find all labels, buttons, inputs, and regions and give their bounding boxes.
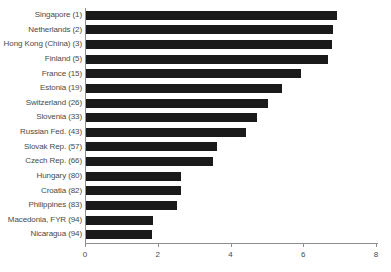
bar-row — [86, 96, 377, 111]
bar — [86, 55, 328, 64]
bar-row — [86, 169, 377, 184]
bar-row — [86, 213, 377, 228]
x-axis-tick-label: 8 — [374, 250, 378, 259]
y-axis-tick-label: Hungary (80) — [0, 169, 82, 184]
y-axis-tick-label: Singapore (1) — [0, 8, 82, 23]
bar-row — [86, 110, 377, 125]
y-axis-tick-label: Philippines (83) — [0, 198, 82, 213]
bar-chart: Singapore (1)Netherlands (2)Hong Kong (C… — [0, 0, 391, 272]
y-axis-tick-label: Czech Rep. (66) — [0, 154, 82, 169]
x-axis-tick — [85, 243, 86, 247]
x-axis-tick — [376, 243, 377, 247]
y-axis-tick-label: Nicaragua (94) — [0, 227, 82, 242]
y-axis-tick-label: Slovak Rep. (57) — [0, 140, 82, 155]
y-axis-tick-label: Hong Kong (China) (3) — [0, 37, 82, 52]
bar — [86, 99, 268, 108]
x-axis-tick — [303, 243, 304, 247]
y-axis-tick-label: Russian Fed. (43) — [0, 125, 82, 140]
y-axis-tick-label: Estonia (19) — [0, 81, 82, 96]
bar-row — [86, 81, 377, 96]
bar-row — [86, 184, 377, 199]
bar — [86, 25, 333, 34]
y-axis-tick-label: Croatia (82) — [0, 184, 82, 199]
y-axis-tick-label: Slovenia (33) — [0, 110, 82, 125]
bar — [86, 84, 282, 93]
y-axis-tick-label: Netherlands (2) — [0, 23, 82, 38]
y-axis-tick-label: Switzerland (26) — [0, 96, 82, 111]
bar-row — [86, 125, 377, 140]
y-axis-category-labels: Singapore (1)Netherlands (2)Hong Kong (C… — [0, 8, 82, 242]
bar — [86, 11, 337, 20]
bar-row — [86, 52, 377, 67]
bar — [86, 69, 301, 78]
y-axis-tick-label: Macedonia, FYR (94) — [0, 213, 82, 228]
bar — [86, 113, 257, 122]
bar — [86, 201, 177, 210]
bar — [86, 172, 181, 181]
x-axis-tick — [231, 243, 232, 247]
bar-row — [86, 8, 377, 23]
bar — [86, 216, 153, 225]
bar — [86, 230, 152, 239]
bar — [86, 128, 246, 137]
bar-row — [86, 154, 377, 169]
x-axis-tick — [158, 243, 159, 247]
x-axis-tick-label: 2 — [156, 250, 160, 259]
bar-row — [86, 67, 377, 82]
plot-area — [86, 8, 377, 242]
bar — [86, 40, 332, 49]
bar — [86, 157, 213, 166]
y-axis-tick-label: France (15) — [0, 67, 82, 82]
bar — [86, 142, 217, 151]
bar-row — [86, 140, 377, 155]
bar-row — [86, 198, 377, 213]
y-axis-tick-label: Finland (5) — [0, 52, 82, 67]
bar-rows — [86, 8, 377, 242]
bar-row — [86, 227, 377, 242]
x-axis-tick-label: 0 — [83, 250, 87, 259]
x-axis-tick-label: 6 — [301, 250, 305, 259]
x-axis-tick-label: 4 — [228, 250, 232, 259]
x-axis-line — [85, 243, 378, 244]
bar-row — [86, 23, 377, 38]
bar-row — [86, 37, 377, 52]
bar — [86, 186, 181, 195]
